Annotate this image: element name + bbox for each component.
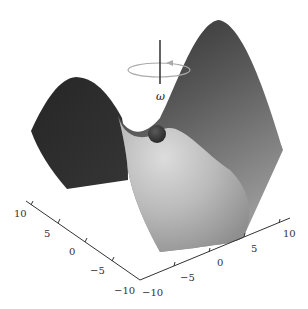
left-axis-tick-label: 10 xyxy=(14,208,27,219)
left-axis-tick-label: −10 xyxy=(114,285,135,296)
right-axis-tick-label: −10 xyxy=(142,287,163,298)
omega-label: ω xyxy=(156,90,165,103)
left-axis-tick-label: 0 xyxy=(69,246,75,257)
left-axis-tick-label: −5 xyxy=(90,265,105,276)
right-axis-tick-label: 5 xyxy=(251,243,257,254)
left-axis-tick-label: 5 xyxy=(44,228,50,239)
right-axis-tick-label: 0 xyxy=(217,257,223,268)
surface-left-wing xyxy=(31,77,128,189)
right-axis-tick-label: −5 xyxy=(180,272,195,283)
ball xyxy=(148,125,166,143)
rotation-arrow-icon xyxy=(166,60,173,66)
right-axis-tick-label: 10 xyxy=(283,228,296,239)
rotation-ring-icon xyxy=(128,63,190,77)
left-axis xyxy=(26,201,140,280)
saddle-surface-figure: ω 10 5 0 −5 −10 −10 −5 0 5 10 xyxy=(0,0,308,309)
